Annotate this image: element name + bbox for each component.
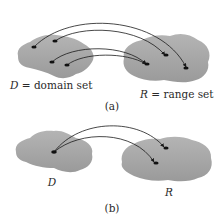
point bbox=[163, 146, 168, 149]
point bbox=[49, 60, 54, 63]
panel-b: D R (b) bbox=[16, 126, 212, 214]
range-set-blob bbox=[122, 137, 212, 181]
range-label-text: = range set bbox=[148, 88, 214, 100]
range-set-blob bbox=[123, 34, 209, 82]
point bbox=[163, 53, 168, 56]
range-variable: R bbox=[139, 88, 148, 100]
panel-a: D = domain set R = range set (a) bbox=[9, 23, 214, 112]
caption-b: (b) bbox=[105, 202, 120, 214]
domain-points bbox=[51, 150, 57, 154]
point bbox=[153, 161, 158, 164]
point bbox=[183, 66, 188, 69]
domain-label: D bbox=[47, 176, 57, 188]
point bbox=[52, 39, 57, 42]
point bbox=[144, 62, 149, 65]
point bbox=[64, 63, 69, 66]
domain-label-text: = domain set bbox=[18, 79, 93, 91]
point bbox=[31, 45, 36, 48]
range-set-label: R = range set bbox=[139, 88, 214, 100]
point bbox=[51, 150, 57, 154]
range-label: R bbox=[164, 186, 173, 198]
function-mapping-figure: D = domain set R = range set (a) D R (b) bbox=[0, 0, 224, 220]
caption-a: (a) bbox=[105, 100, 119, 112]
domain-set-label: D = domain set bbox=[9, 79, 93, 91]
